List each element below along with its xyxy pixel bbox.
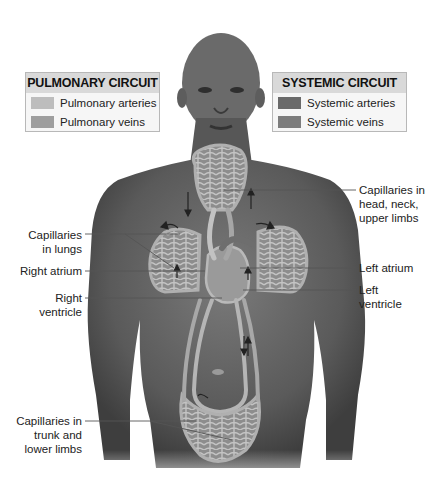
label-line: Capillaries in	[359, 183, 425, 197]
swatch-pulmonary-arteries	[31, 97, 54, 109]
swatch-systemic-veins	[278, 116, 301, 128]
label-line: upper limbs	[359, 211, 425, 225]
legend-item-systemic-veins: Systemic veins	[273, 112, 406, 131]
label-line: trunk and	[16, 428, 82, 442]
label-line: ventricle	[39, 305, 82, 319]
legend-pulmonary: PULMONARY CIRCUIT Pulmonary arteries Pul…	[25, 72, 160, 132]
legend-item-pulmonary-arteries: Pulmonary arteries	[26, 93, 159, 112]
label-right-atrium: Right atrium	[20, 264, 82, 278]
legend-label: Pulmonary veins	[60, 116, 145, 128]
label-left-ventricle: Left ventricle	[359, 283, 402, 311]
label-capillaries-lungs: Capillaries in lungs	[28, 228, 82, 256]
legend-item-pulmonary-veins: Pulmonary veins	[26, 112, 159, 131]
label-left-atrium: Left atrium	[359, 261, 413, 275]
label-line: lower limbs	[16, 442, 82, 456]
label-line: Capillaries in	[16, 414, 82, 428]
legend-label: Systemic veins	[307, 116, 384, 128]
legend-label: Systemic arteries	[307, 97, 395, 109]
label-line: Right	[39, 291, 82, 305]
legend-pulmonary-title: PULMONARY CIRCUIT	[26, 73, 159, 93]
label-capillaries-trunk: Capillaries in trunk and lower limbs	[16, 414, 82, 456]
swatch-systemic-arteries	[278, 97, 301, 109]
legend-item-systemic-arteries: Systemic arteries	[273, 93, 406, 112]
label-line: head, neck,	[359, 197, 425, 211]
label-line: in lungs	[28, 242, 82, 256]
legend-systemic: SYSTEMIC CIRCUIT Systemic arteries Syste…	[272, 72, 407, 132]
swatch-pulmonary-veins	[31, 116, 54, 128]
legend-label: Pulmonary arteries	[60, 97, 157, 109]
label-line: Capillaries	[28, 228, 82, 242]
label-capillaries-head: Capillaries in head, neck, upper limbs	[359, 183, 425, 225]
legend-systemic-title: SYSTEMIC CIRCUIT	[273, 73, 406, 93]
label-line: ventricle	[359, 297, 402, 311]
label-line: Left	[359, 283, 402, 297]
label-right-ventricle: Right ventricle	[39, 291, 82, 319]
